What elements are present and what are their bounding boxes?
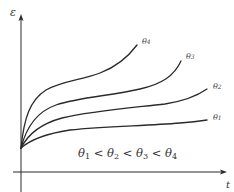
- curve-label-theta2: θ2: [213, 82, 222, 91]
- curve-theta2: [21, 89, 207, 148]
- curve-theta1: [21, 120, 207, 148]
- curve-theta4: [21, 45, 137, 148]
- y-axis: ε: [10, 6, 24, 192]
- y-axis-label: ε: [10, 6, 16, 19]
- temperature-relation: θ1 < θ2 < θ3 < θ4: [78, 146, 177, 161]
- curve-labels: θ4 θ3 θ2 θ1: [142, 37, 222, 122]
- curves: [21, 45, 207, 148]
- creep-curve-diagram: ε t θ4 θ3 θ2 θ1 θ1 < θ2 < θ3 < θ4: [0, 0, 234, 192]
- curve-label-theta1: θ1: [213, 113, 222, 122]
- curve-label-theta3: θ3: [186, 52, 195, 61]
- x-axis-label: t: [226, 179, 231, 190]
- curve-label-theta4: θ4: [142, 37, 151, 46]
- x-axis: t: [13, 170, 231, 191]
